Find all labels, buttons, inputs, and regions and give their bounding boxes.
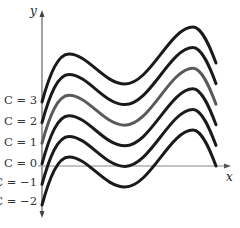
y-axis-label: y <box>29 4 37 18</box>
label-c-1: C = 1 <box>4 135 37 149</box>
label-c-minus-1: C = −1 <box>0 175 37 189</box>
antiderivative-family-diagram: y x C = 3 C = 2 C = 1 C = 0 C = −1 C = −… <box>0 0 240 228</box>
curve-c-minus-1 <box>42 109 216 184</box>
curve-c-minus-2 <box>42 130 216 205</box>
y-axis-arrow-icon <box>40 10 45 17</box>
curve-c-3 <box>42 27 216 102</box>
curve-c-1 <box>42 68 216 143</box>
label-c-3: C = 3 <box>4 93 37 107</box>
label-c-minus-2: C = −2 <box>0 194 37 208</box>
curve-c-2 <box>42 48 216 123</box>
x-axis-arrow-icon <box>224 164 231 169</box>
x-axis-label: x <box>226 170 233 184</box>
label-c-2: C = 2 <box>4 114 37 128</box>
y-axis-down-arrow-icon <box>40 211 45 218</box>
curve-c-0 <box>42 89 216 164</box>
label-c-0: C = 0 <box>4 156 37 170</box>
